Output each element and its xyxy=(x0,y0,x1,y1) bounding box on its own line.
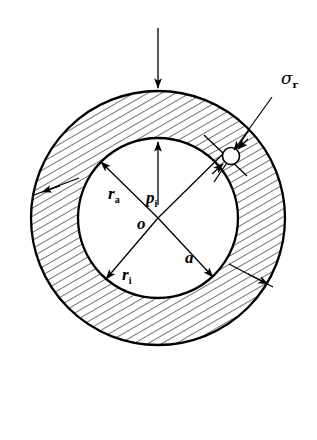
sigma-r-symbol: σ xyxy=(281,68,293,88)
thick-wall-cylinder-figure: σr ra ri pi a o xyxy=(0,0,317,440)
pressure-pi-symbol: p xyxy=(144,188,155,207)
sigma-r-subscript: r xyxy=(293,79,299,90)
center-o-label: o xyxy=(137,214,146,233)
figure-svg: σr ra ri pi a o xyxy=(0,0,317,440)
radius-ra-subscript: a xyxy=(115,194,120,205)
pressure-pi-subscript: i xyxy=(155,198,158,209)
radius-ri-subscript: i xyxy=(129,275,132,286)
sigma-r-label: σr xyxy=(281,68,299,90)
stress-element-circle xyxy=(223,148,240,165)
radius-a-label: a xyxy=(185,248,194,267)
